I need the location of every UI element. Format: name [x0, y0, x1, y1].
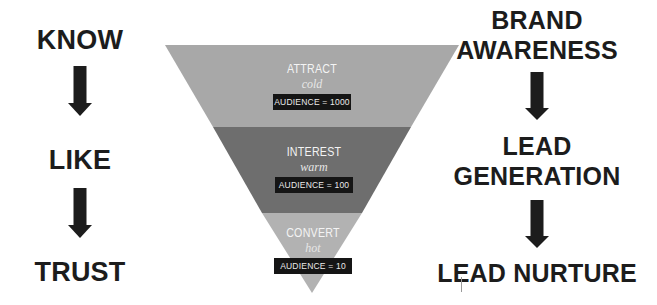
text-cursor [461, 277, 462, 292]
stage-temperature-convert: hot [263, 242, 363, 254]
stage-title-interest: INTEREST [273, 145, 355, 159]
down-arrow-icon [524, 200, 550, 250]
label-like: LIKE [20, 147, 140, 174]
down-arrow-icon [67, 188, 93, 240]
down-arrow-icon [67, 66, 93, 118]
label-lead-nurture: LEAD NURTURE [432, 261, 642, 286]
stage-temperature-attract: cold [262, 78, 362, 90]
down-arrow-icon [524, 72, 550, 122]
stage-temperature-interest: warm [264, 161, 364, 173]
audience-badge-convert: AUDIENCE = 10 [274, 258, 352, 274]
audience-badge-interest: AUDIENCE = 100 [275, 177, 353, 193]
funnel-diagram: ATTRACT cold AUDIENCE = 1000 INTEREST wa… [0, 0, 657, 305]
audience-badge-attract: AUDIENCE = 1000 [273, 94, 351, 110]
label-awareness: AWARENESS [447, 38, 627, 63]
stage-title-convert: CONVERT [272, 226, 354, 240]
label-trust: TRUST [20, 259, 140, 286]
label-lead: LEAD [447, 134, 627, 159]
label-know: KNOW [20, 27, 140, 54]
label-brand: BRAND [447, 8, 627, 33]
stage-title-attract: ATTRACT [271, 62, 353, 76]
label-generation: GENERATION [447, 164, 627, 189]
